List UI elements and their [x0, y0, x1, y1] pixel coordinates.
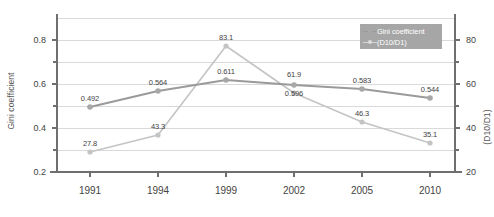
data-label-d10d1-2005: 46.3: [342, 109, 382, 118]
legend-entry-d10d1[interactable]: (D10/D1): [363, 37, 440, 47]
y-axis-right-tick-0: 80: [466, 35, 492, 45]
x-axis-tick-1994: 1994: [138, 185, 178, 196]
legend-marker-d10d1-icon: [363, 38, 377, 47]
line-chart: Gini coefficient (D10/D1): [0, 0, 494, 217]
y-axis-left-ticks: [52, 40, 57, 172]
series-line-d10d1: [87, 43, 432, 154]
data-label-gini-1991: 0.492: [70, 94, 110, 103]
data-label-d10d1-1999: 83.1: [206, 33, 246, 42]
x-axis-tick-1999: 1999: [206, 185, 246, 196]
y-axis-right-ticks: [455, 40, 460, 172]
x-axis-tick-1991: 1991: [70, 185, 110, 196]
legend-label-d10d1: (D10/D1): [377, 38, 407, 47]
data-label-d10d1-2010: 35.1: [410, 130, 450, 139]
data-label-gini-1994: 0.564: [138, 78, 178, 87]
legend-entry-gini[interactable]: Gini coefficient: [363, 27, 440, 37]
data-label-gini-2010: 0.544: [410, 85, 450, 94]
legend-marker-gini-icon: [363, 27, 377, 36]
y-axis-left-tick-2: 0.4: [20, 123, 46, 133]
chart-legend[interactable]: Gini coefficient (D10/D1): [360, 24, 442, 49]
y-axis-right-tick-2: 40: [466, 123, 492, 133]
data-label-gini-2002: 0.596: [274, 89, 314, 98]
data-label-gini-2005: 0.583: [342, 76, 382, 85]
y-axis-right-tick-3: 20: [466, 167, 492, 177]
legend-label-gini: Gini coefficient: [377, 27, 424, 36]
x-axis-ticks: [90, 172, 430, 177]
y-axis-right-tick-1: 60: [466, 79, 492, 89]
y-axis-left-tick-3: 0.2: [20, 167, 46, 177]
x-axis-tick-2005: 2005: [342, 185, 382, 196]
data-label-gini-1999: 0.611: [206, 67, 246, 76]
x-axis-tick-2002: 2002: [274, 185, 314, 196]
y-axis-left-tick-0: 0.8: [20, 35, 46, 45]
x-axis-tick-2010: 2010: [410, 185, 450, 196]
y-axis-left-tick-1: 0.6: [20, 79, 46, 89]
data-label-d10d1-1991: 27.8: [70, 139, 110, 148]
data-label-d10d1-2002: 61.9: [274, 70, 314, 79]
data-label-d10d1-1994: 43.3: [138, 122, 178, 131]
